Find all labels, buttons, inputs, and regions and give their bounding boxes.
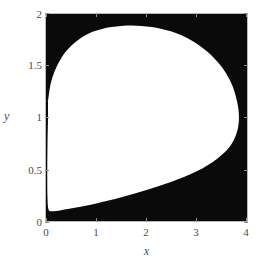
xtick-mark-3 <box>196 218 197 222</box>
ytick-mark-right-0.5 <box>244 170 248 171</box>
y-axis-label: y <box>4 110 9 122</box>
xtick-mark-top-2 <box>146 13 147 17</box>
xtick-mark-1 <box>96 218 97 222</box>
xtick-label-3: 3 <box>193 227 199 238</box>
plot-frame <box>45 13 248 222</box>
ytick-mark-right-0 <box>244 222 248 223</box>
xtick-label-2: 2 <box>143 227 149 238</box>
xtick-mark-0 <box>46 218 47 222</box>
ytick-label-1: 1 <box>37 112 43 123</box>
shaded-region-svg <box>46 14 247 221</box>
ytick-mark-1.5 <box>45 65 49 66</box>
x-axis-label: x <box>0 245 266 257</box>
ytick-mark-right-1.5 <box>244 65 248 66</box>
xtick-mark-4 <box>246 218 247 222</box>
ytick-label-0: 0 <box>37 217 43 228</box>
xtick-mark-top-4 <box>246 13 247 17</box>
region-plot-figure: 0 0.5 1 1.5 2 0 1 2 3 4 y x <box>0 0 266 267</box>
ytick-label-1.5: 1.5 <box>28 60 42 71</box>
xtick-label-4: 4 <box>243 227 249 238</box>
ytick-mark-1 <box>45 117 49 118</box>
ytick-mark-0.5 <box>45 170 49 171</box>
ytick-mark-0 <box>45 222 49 223</box>
ytick-mark-right-1 <box>244 117 248 118</box>
xtick-mark-top-3 <box>196 13 197 17</box>
ytick-label-0.5: 0.5 <box>28 165 42 176</box>
ytick-label-2: 2 <box>37 9 43 20</box>
xtick-label-1: 1 <box>93 227 99 238</box>
xtick-mark-2 <box>146 218 147 222</box>
xtick-mark-top-1 <box>96 13 97 17</box>
region-boundary-path <box>47 25 239 211</box>
xtick-label-0: 0 <box>43 227 49 238</box>
xtick-mark-top-0 <box>46 13 47 17</box>
